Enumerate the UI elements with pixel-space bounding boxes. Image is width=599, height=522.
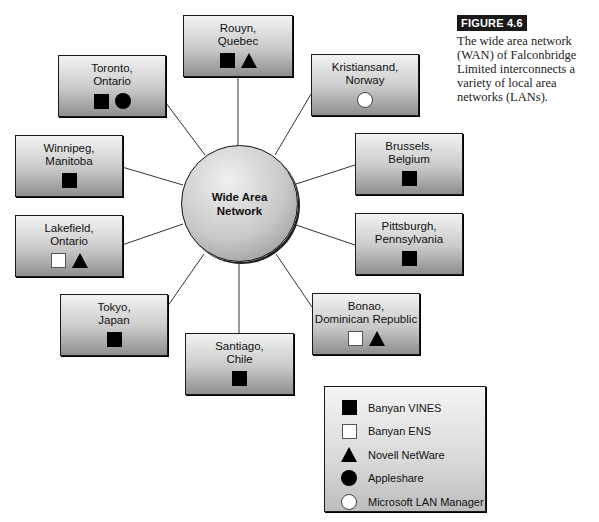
node-name: Rouyn,Quebec [184,22,292,48]
white-circle-icon [341,494,357,510]
banyan-vines-icon [402,171,417,186]
microsoft-lan-manager-icon [357,92,373,108]
node-name: Brussels,Belgium [356,140,462,166]
node-name: Lakefield,Ontario [16,222,122,248]
link-pittsburgh [296,225,355,245]
link-toronto [166,103,205,155]
node-name: Pittsburgh,Pennsylvania [356,220,462,246]
node-name: Kristiansand,Norway [312,61,418,87]
legend-item-banyan-vines: Banyan VINES [325,396,485,420]
legend-item-novell-netware: Novell NetWare [325,443,485,467]
novell-netware-icon [369,331,385,346]
node-tokyo: Tokyo,Japan [60,294,168,356]
node-bonao: Bonao,Dominican Republic [312,293,420,355]
node-lakefield: Lakefield,Ontario [15,215,123,277]
banyan-vines-icon [402,251,417,266]
node-brussels: Brussels,Belgium [355,133,463,195]
banyan-vines-icon [232,371,247,386]
banyan-vines-icon [62,173,77,188]
link-tokyo [167,254,204,307]
legend-item-appleshare: Appleshare [325,467,485,491]
appleshare-icon [115,93,131,109]
link-bonao [276,254,312,307]
legend-item-microsoft-lan-manager: Microsoft LAN Manager [325,490,485,514]
banyan-vines-icon [107,332,122,347]
node-kristiansand: Kristiansand,Norway [311,54,419,116]
node-santiago: Santiago,Chile [185,333,294,395]
white-square-icon [342,424,357,439]
black-circle-icon [341,470,357,486]
figure-caption: FIGURE 4.6 The wide area network (WAN) o… [457,13,599,104]
legend: Banyan VINES Banyan ENS Novell NetWare A… [324,386,486,512]
link-kristiansand [275,94,311,155]
node-rouyn: Rouyn,Quebec [183,15,293,77]
banyan-vines-icon [94,94,109,109]
banyan-ens-icon [51,253,66,268]
node-name: Tokyo,Japan [61,301,167,327]
node-name: Toronto,Ontario [59,62,165,88]
node-pittsburgh: Pittsburgh,Pennsylvania [355,213,463,275]
banyan-vines-icon [220,53,235,68]
legend-item-banyan-ens: Banyan ENS [325,420,485,444]
banyan-ens-icon [348,331,363,346]
figure-description: The wide area network (WAN) of Falconbri… [457,34,599,104]
node-name: Santiago,Chile [186,340,293,366]
node-name: Bonao,Dominican Republic [313,300,419,326]
novell-netware-icon [241,53,257,68]
node-name: Winnipeg,Manitoba [16,142,122,168]
link-lakefield [122,224,183,245]
node-toronto: Toronto,Ontario [58,55,166,117]
node-winnipeg: Winnipeg,Manitoba [15,135,123,197]
link-winnipeg [122,167,183,185]
wan-hub: Wide Area Network [181,145,298,262]
black-triangle-icon [341,447,357,462]
black-square-icon [342,400,357,415]
link-brussels [296,165,355,184]
figure-label: FIGURE 4.6 [457,15,527,31]
hub-label: Wide Area Network [200,190,280,218]
novell-netware-icon [72,253,88,268]
